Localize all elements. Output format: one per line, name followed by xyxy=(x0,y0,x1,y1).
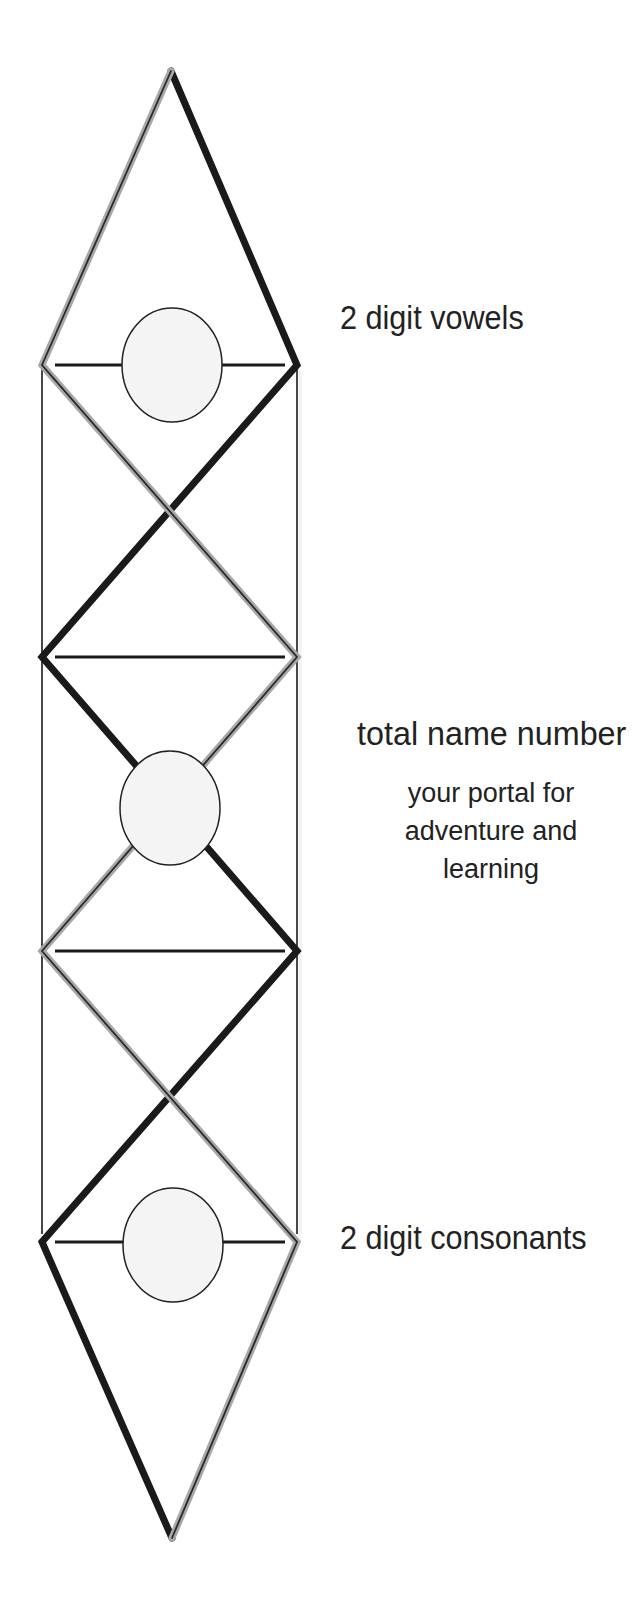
vowels-label: 2 digit vowels xyxy=(340,300,524,334)
subtext-line-2: adventure and xyxy=(391,812,591,850)
total-circle xyxy=(120,751,220,865)
subtext-line-3: learning xyxy=(391,850,591,888)
consonants-circle xyxy=(123,1188,223,1302)
vowels-circle xyxy=(122,308,222,422)
portal-subtext: your portal for adventure and learning xyxy=(391,774,591,888)
total-name-number-label: total name number xyxy=(357,716,626,750)
consonants-label: 2 digit consonants xyxy=(340,1220,587,1254)
subtext-line-1: your portal for xyxy=(391,774,591,812)
